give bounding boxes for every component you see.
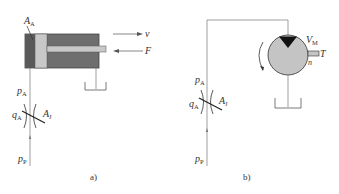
throttle-area-a-label: AJ [42, 108, 52, 120]
diagram-b: VM T n pA qA AJ pP b) [189, 20, 327, 182]
torque-label: T [320, 48, 327, 59]
motor-shaft [308, 51, 319, 56]
displacement-label: VM [306, 34, 318, 46]
velocity-arrowhead-icon [137, 32, 143, 36]
diagram-a: AA v F pA qA AJ pP a) [12, 15, 152, 182]
flow-arrow-a-icon [29, 135, 31, 139]
caption-b: b) [243, 172, 251, 182]
area-label-a: AA [23, 15, 35, 27]
piston [35, 34, 47, 68]
hydraulic-circuit-diagram: AA v F pA qA AJ pP a) [0, 0, 339, 194]
tank-a-icon [85, 82, 106, 90]
rotation-arrowhead-icon [260, 66, 264, 71]
rotation-arrow-icon [259, 42, 263, 70]
pressure-b-label: pA [194, 74, 205, 86]
cylinder-cap-chamber [25, 34, 35, 68]
flow-a-label: qA [12, 109, 22, 121]
throttle-valve-a-icon [22, 104, 45, 128]
throttle-area-b-label: AJ [218, 95, 228, 107]
caption-a: a) [90, 172, 97, 182]
flow-arrow-b-icon [206, 128, 208, 132]
pump-pressure-a-label: pP [17, 153, 27, 165]
piston-rod [47, 46, 106, 52]
flow-b-label: qA [189, 98, 199, 110]
force-arrowhead-icon [113, 49, 119, 53]
velocity-label: v [145, 28, 150, 39]
pump-pressure-b-label: pP [194, 153, 204, 165]
pressure-a-label: pA [16, 85, 27, 97]
speed-label: n [308, 58, 312, 67]
force-label: F [144, 45, 152, 56]
